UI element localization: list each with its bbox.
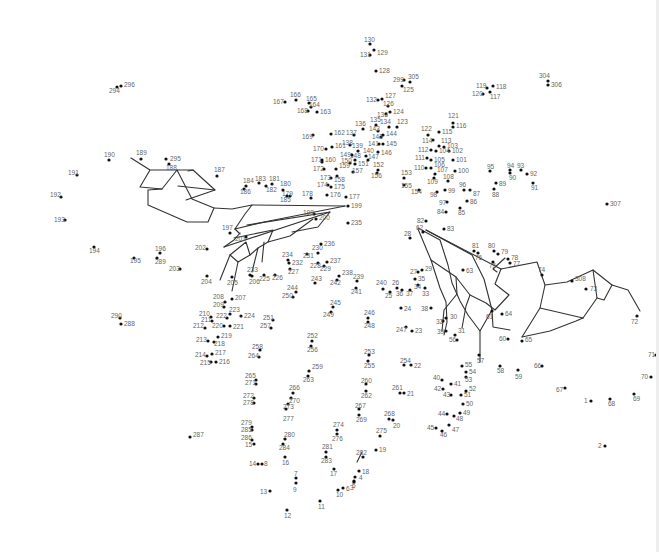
dot-number-label: 154 [411,188,422,195]
puzzle-dot: 75 [489,260,497,269]
dot-marker [516,368,519,371]
dot-number-label: 4 [359,474,363,481]
dot-marker [329,132,332,135]
dot-number-label: 239 [353,273,364,280]
dot-number-label: 199 [351,202,362,209]
puzzle-dot: 64 [500,310,512,317]
puzzle-dot: 238 [337,269,353,278]
dot-marker [119,84,122,87]
dot-number-label: 173 [320,174,331,181]
puzzle-dot: 175 [329,183,345,190]
dot-number-label: 151 [358,160,369,167]
dot-marker [164,157,167,160]
puzzle-dot: 276 [332,432,343,442]
dot-number-label: 166 [290,91,301,98]
dot-number-label: 269 [356,416,367,423]
puzzle-dot: 21 [402,390,414,397]
dot-number-label: 222 [216,312,227,319]
dot-marker [325,193,328,196]
dot-number-label: 289 [155,258,166,265]
dot-number-label: 29 [425,265,433,272]
dot-marker [230,297,233,300]
puzzle-dot: 240 [376,279,387,291]
puzzle-dot: 17 [330,467,338,477]
dot-number-label: 38 [421,305,429,312]
dot-marker [203,326,206,329]
puzzle-dot: 285 [241,426,254,433]
dot-number-label: 48 [456,415,464,422]
puzzle-dot: 13 [260,488,272,495]
puzzle-dot: 242 [330,278,341,286]
puzzle-dot: 84 [437,208,448,215]
puzzle-dot: 232 [287,259,303,266]
drawn-line [501,262,545,337]
dot-number-label: 137 [346,129,357,136]
puzzle-dot: 29 [420,265,432,272]
dot-number-label: 232 [292,259,303,266]
dot-number-label: 193 [54,216,65,223]
puzzle-dot: 134 [380,118,391,129]
dot-marker [429,158,432,161]
dot-number-label: 304 [539,72,550,79]
dot-marker [337,274,340,277]
dot-marker [206,339,209,342]
dot-marker [449,382,452,385]
dot-number-label: 134 [380,118,391,125]
dot-number-label: 54 [469,368,477,375]
puzzle-dot: 201 [235,235,248,242]
dot-marker [366,316,369,319]
dot-marker [222,324,225,327]
dot-marker [388,110,391,113]
dot-number-label: 127 [385,92,396,99]
dot-number-label: 116 [456,122,467,129]
dot-number-label: 139 [352,142,363,149]
dot-marker [453,169,456,172]
puzzle-dot: 223 [228,306,240,316]
dot-marker [329,185,332,188]
dot-marker [353,162,356,165]
dot-number-label: 249 [323,311,334,318]
puzzle-dot: 58 [497,364,505,374]
dot-number-label: 296 [124,81,135,88]
puzzle-dot: 55 [460,361,472,368]
dot-marker [584,287,587,290]
dot-marker [540,273,543,276]
dot-number-label: 128 [379,67,390,74]
dot-number-label: 212 [193,322,204,329]
dot-marker [461,268,464,271]
puzzle-dot: 196 [155,245,166,255]
dot-number-label: 200 [319,214,330,221]
dot-number-label: 143 [369,125,380,132]
puzzle-dot: 177 [344,193,360,200]
puzzle-dot: 261 [392,384,403,395]
dot-number-label: 6 [346,485,350,492]
dot-marker [107,158,110,161]
dot-number-label: 214 [195,351,206,358]
puzzle-dot: 74 [538,266,546,277]
puzzle-dot: 251 [263,314,275,322]
drawn-line [250,242,268,255]
dot-number-label: 121 [448,112,459,119]
dot-number-label: 180 [280,180,291,187]
puzzle-dot: 114 [422,137,435,144]
dot-number-label: 153 [401,169,412,176]
puzzle-dot: 235 [346,219,362,226]
dot-marker [374,448,377,451]
dot-number-label: 189 [136,149,147,156]
puzzle-dot: 205 [227,275,238,286]
dot-number-label: 216 [219,358,230,365]
puzzle-dot: 290 [111,312,122,320]
dot-number-label: 44 [438,410,446,417]
dot-number-label: 112 [418,146,429,153]
dot-number-label: 246 [364,309,375,316]
dot-marker [291,391,294,394]
dot-number-label: 1 [584,397,588,404]
dot-marker [460,364,463,367]
dot-number-label: 37 [406,290,414,297]
puzzle-dot: 110 [414,164,428,171]
dot-marker [546,79,549,82]
dot-number-label: 89 [499,180,507,187]
dot-number-label: 220 [212,322,223,329]
puzzle-dot: 9 [293,481,298,493]
dot-number-label: 40 [433,374,441,381]
